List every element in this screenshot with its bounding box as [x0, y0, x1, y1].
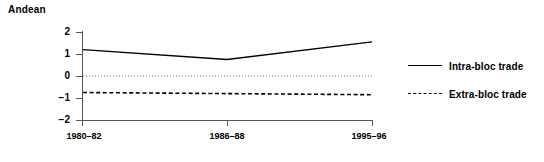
series-line-extra-bloc-trade [83, 93, 372, 95]
legend-item-intra-bloc-trade: Intra-bloc trade [408, 52, 540, 80]
series-line-intra-bloc-trade [83, 42, 372, 60]
legend-item-extra-bloc-trade: Extra-bloc trade [408, 80, 540, 108]
legend-item-label: Extra-bloc trade [449, 89, 527, 100]
line-dashed-icon [408, 90, 442, 98]
line-solid-icon [408, 62, 442, 70]
legend: Intra-bloc trade Extra-bloc trade [408, 52, 540, 108]
legend-item-label: Intra-bloc trade [449, 61, 523, 72]
